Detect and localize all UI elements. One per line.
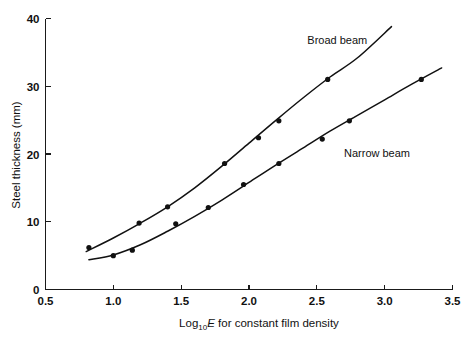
tick-labels-group: 0.51.01.52.02.53.03.5010203040 bbox=[27, 13, 461, 307]
y-tick-label: 20 bbox=[27, 149, 40, 161]
data-point-marker bbox=[256, 135, 261, 140]
data-point-marker bbox=[137, 221, 142, 226]
y-axis-title: Steel thickness (mm) bbox=[10, 101, 22, 209]
data-point-marker bbox=[241, 182, 246, 187]
data-point-marker bbox=[419, 77, 424, 82]
y-tick-label: 0 bbox=[33, 284, 39, 296]
y-tick-label: 30 bbox=[27, 81, 40, 93]
data-point-marker bbox=[206, 205, 211, 210]
y-tick-label: 40 bbox=[27, 13, 40, 25]
data-point-marker bbox=[86, 245, 91, 250]
data-point-marker bbox=[276, 161, 281, 166]
data-point-marker bbox=[111, 253, 116, 258]
x-tick-label: 2.0 bbox=[241, 295, 257, 307]
figure-container: 0.51.01.52.02.53.03.5010203040 Broad bea… bbox=[0, 0, 467, 341]
series-label: Narrow beam bbox=[344, 147, 410, 159]
x-tick-label: 1.0 bbox=[105, 295, 121, 307]
series-fit-curve bbox=[89, 68, 442, 260]
x-axis-title: Log10E for constant film density bbox=[179, 317, 339, 332]
x-tick-label: 3.0 bbox=[377, 295, 393, 307]
series-points-group bbox=[86, 77, 424, 258]
data-point-marker bbox=[130, 248, 135, 253]
chart-plot: 0.51.01.52.02.53.03.5010203040 Broad bea… bbox=[0, 0, 467, 341]
data-point-marker bbox=[325, 77, 330, 82]
data-point-marker bbox=[222, 161, 227, 166]
series-label: Broad beam bbox=[307, 34, 367, 46]
x-tick-label: 3.5 bbox=[445, 295, 462, 307]
data-point-marker bbox=[347, 118, 352, 123]
data-point-marker bbox=[173, 221, 178, 226]
x-tick-label: 0.5 bbox=[38, 295, 55, 307]
y-tick-label: 10 bbox=[27, 216, 40, 228]
data-point-marker bbox=[320, 137, 325, 142]
data-point-marker bbox=[165, 204, 170, 209]
x-tick-label: 2.5 bbox=[309, 295, 326, 307]
series-fit-curve bbox=[86, 27, 391, 252]
x-tick-label: 1.5 bbox=[173, 295, 190, 307]
data-point-marker bbox=[276, 118, 281, 123]
